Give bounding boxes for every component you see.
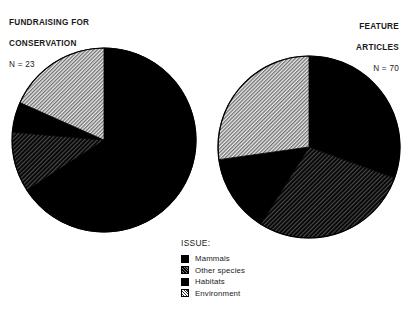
legend-swatch-environment-icon — [181, 289, 189, 297]
legend-item[interactable]: Other species — [181, 265, 245, 276]
legend-swatch-other-species-icon — [181, 266, 189, 274]
legend-item-label: Environment — [195, 289, 240, 298]
pie-svg-fundraising — [11, 47, 197, 233]
pie-chart-fundraising — [11, 47, 197, 233]
legend: ISSUE: MammalsOther speciesHabitatsEnvir… — [181, 238, 245, 299]
pie-chart-figure: FUNDRAISING FOR CONSERVATION N = 23 FEAT… — [0, 0, 412, 314]
legend-item[interactable]: Mammals — [181, 253, 245, 264]
legend-item-label: Mammals — [195, 254, 230, 263]
chart-title-line1: FUNDRAISING FOR — [9, 18, 89, 29]
legend-item-label: Other species — [195, 266, 245, 275]
chart-title-line1: FEATURE — [356, 22, 399, 33]
legend-item[interactable]: Habitats — [181, 276, 245, 287]
legend-item-label: Habitats — [195, 277, 225, 286]
legend-item[interactable]: Environment — [181, 288, 245, 299]
pie-slice-environment[interactable] — [218, 56, 309, 160]
pie-chart-feature-articles — [217, 55, 401, 239]
legend-swatch-mammals-icon — [181, 255, 189, 263]
pie-svg-feature-articles — [217, 55, 401, 239]
legend-title: ISSUE: — [181, 238, 245, 248]
legend-item-list: MammalsOther speciesHabitatsEnvironment — [181, 253, 245, 299]
legend-swatch-habitats-icon — [181, 278, 189, 286]
chart-title-line2: ARTICLES — [356, 43, 399, 54]
